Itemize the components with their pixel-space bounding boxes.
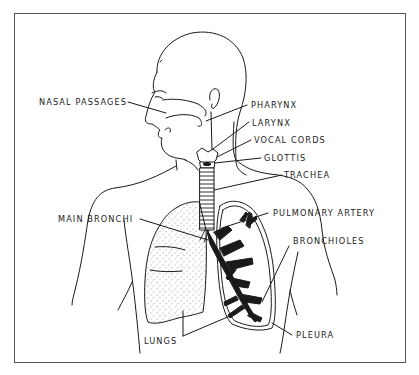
label-vocal-cords: VOCAL CORDS xyxy=(254,135,326,145)
bronchial-tree xyxy=(207,212,262,322)
label-lungs: LUNGS xyxy=(144,336,177,346)
larynx xyxy=(197,148,218,168)
label-pulmonary-artery: PULMONARY ARTERY xyxy=(273,208,375,218)
label-bronchioles: BRONCHIOLES xyxy=(293,236,365,246)
label-glottis: GLOTTIS xyxy=(264,153,306,163)
label-nasal-passages: NASAL PASSAGES xyxy=(39,97,127,107)
head-outline xyxy=(145,32,246,175)
label-main-bronchi: MAIN BRONCHI xyxy=(58,214,133,224)
label-pharynx: PHARYNX xyxy=(251,100,297,110)
label-larynx: LARYNX xyxy=(252,118,291,128)
label-pleura: PLEURA xyxy=(296,330,334,340)
label-trachea: TRACHEA xyxy=(284,170,330,180)
respiratory-system-illustration xyxy=(0,0,419,375)
lung-left-stippled xyxy=(145,202,207,323)
